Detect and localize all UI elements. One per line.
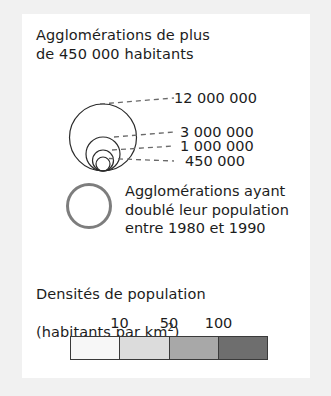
leader-3000000: [114, 132, 174, 137]
density-title-line1: Densités de population: [36, 286, 206, 302]
density-tick-labels: 10 50 100: [70, 314, 268, 333]
density-color-scale: [70, 336, 268, 360]
size-label-1000000: 1 000 000: [180, 138, 254, 154]
leader-1000000: [112, 146, 174, 150]
density-swatch-1: [71, 337, 120, 359]
doubled-population-caption: Agglomérations ayant doublé leur populat…: [125, 182, 289, 238]
agglomerations-title: Agglomérations de plus de 450 000 habita…: [36, 26, 210, 64]
map-legend-panel: Agglomérations de plus de 450 000 habita…: [22, 14, 310, 378]
density-swatch-2: [120, 337, 169, 359]
density-tick-100: 100: [205, 314, 233, 333]
circle-1000000: [93, 150, 114, 171]
doubled-population-ring-icon: [66, 183, 112, 229]
density-tick-50: 50: [160, 314, 178, 333]
agglomeration-circles-figure: 12 000 000 3 000 000 1 000 000 450 000: [22, 68, 310, 178]
density-tick-10: 10: [110, 314, 128, 333]
size-label-12000000: 12 000 000: [174, 90, 257, 106]
density-swatch-4: [219, 337, 267, 359]
leader-12000000: [100, 98, 174, 104]
density-swatch-3: [170, 337, 219, 359]
size-label-450000: 450 000: [185, 153, 245, 169]
circle-3000000: [86, 137, 120, 171]
circle-450000: [96, 157, 110, 171]
